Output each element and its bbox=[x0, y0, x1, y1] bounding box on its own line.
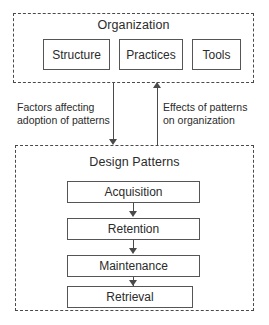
edge-label-effects-of-patterns: Effects of patterns on organization bbox=[163, 101, 247, 126]
arrow-down-icon bbox=[129, 211, 137, 217]
node-retention[interactable]: Retention bbox=[67, 218, 200, 240]
node-maintenance[interactable]: Maintenance bbox=[67, 255, 200, 277]
node-structure[interactable]: Structure bbox=[43, 39, 110, 70]
edge-label-factors-affecting: Factors affecting adoption of patterns bbox=[17, 101, 110, 126]
arrow-organization-to-patterns-shaft bbox=[113, 82, 114, 141]
edge-label-factors-line-1: Factors affecting bbox=[17, 101, 110, 114]
node-practices[interactable]: Practices bbox=[119, 39, 183, 70]
design-patterns-group-title: Design Patterns bbox=[16, 155, 253, 169]
node-tools[interactable]: Tools bbox=[192, 39, 241, 70]
organization-group-title: Organization bbox=[14, 18, 253, 32]
arrow-down-icon bbox=[129, 248, 137, 254]
edge-label-effects-line-2: on organization bbox=[163, 114, 247, 127]
arrow-up-icon bbox=[153, 82, 161, 88]
node-acquisition[interactable]: Acquisition bbox=[67, 181, 200, 203]
diagram-canvas: Organization Structure Practices Tools F… bbox=[0, 0, 269, 325]
node-retrieval[interactable]: Retrieval bbox=[67, 286, 193, 308]
edge-label-factors-line-2: adoption of patterns bbox=[17, 114, 110, 127]
arrow-patterns-to-organization-shaft bbox=[157, 88, 158, 146]
edge-label-effects-line-1: Effects of patterns bbox=[163, 101, 247, 114]
